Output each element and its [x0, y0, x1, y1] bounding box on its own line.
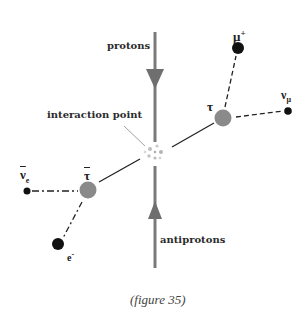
- nu-mu-particle: [284, 107, 292, 115]
- anti-nu-e-symbol: νe: [20, 168, 29, 185]
- interaction-point-icon: [144, 143, 165, 163]
- electron-track: [63, 202, 82, 238]
- antiprotons-label: antiprotons: [160, 235, 225, 245]
- figure-caption: (figure 35): [130, 292, 185, 308]
- anti-tau-track: [99, 159, 140, 182]
- tau-symbol: τ: [207, 100, 213, 113]
- protons-label: protons: [107, 41, 150, 51]
- anti-tau-symbol: τ: [84, 169, 90, 182]
- interaction-point-leader: [124, 126, 145, 146]
- nu-mu-track: [236, 111, 283, 117]
- tau-particle: [215, 110, 232, 127]
- interaction-point-label: interaction point: [47, 110, 142, 120]
- anti-tau-particle: [80, 182, 97, 199]
- tau-track: [172, 123, 214, 147]
- particle-decay-diagram: [0, 0, 307, 323]
- electron-symbol: e-: [67, 251, 74, 263]
- muon-plus-symbol: μ+: [233, 29, 246, 43]
- nu-mu-symbol: νμ: [281, 89, 291, 104]
- electron-particle: [52, 238, 64, 250]
- muon-track: [225, 56, 236, 107]
- antiprotons-beam-arrow: [148, 166, 162, 268]
- anti-nu-e-particle: [24, 188, 31, 195]
